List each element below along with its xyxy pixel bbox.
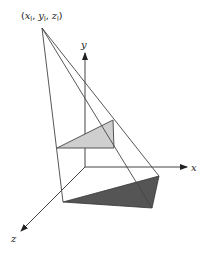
ray-top-right <box>42 28 159 176</box>
y-axis-label: y <box>80 39 87 50</box>
shadow-triangle <box>63 176 159 208</box>
x-axis-label: x <box>191 162 197 173</box>
z-axis-label: z <box>10 233 17 244</box>
ray-bottom-right <box>42 28 152 208</box>
light-point-label: (xl, yl, zl) <box>21 10 63 23</box>
projection-diagram: (xl, yl, zl) y x z <box>0 0 209 253</box>
ray-left <box>42 28 63 202</box>
